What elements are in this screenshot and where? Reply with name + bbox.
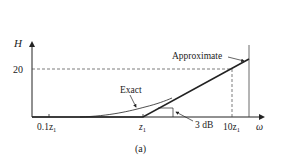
three-db-bracket [158, 108, 173, 117]
x-tick-10z1-label: 10z1 [223, 122, 240, 133]
approximate-label: Approximate [172, 51, 222, 61]
bode-magnitude-diagram: H 20 ω 0.1z1 z1 10z1 Approximate Exact 3… [0, 0, 281, 165]
y-axis-label: H [13, 37, 23, 49]
figure-caption: (a) [135, 143, 146, 155]
x-tick-z1-label: z1 [138, 122, 146, 133]
y-tick-20-label: 20 [13, 64, 23, 75]
approximate-pointer [228, 57, 244, 61]
x-tick-0-1z1-label: 0.1z1 [37, 122, 56, 133]
x-axis-label: ω [256, 121, 263, 132]
three-db-label: 3 dB [195, 120, 213, 130]
exact-label: Exact [120, 85, 142, 95]
exact-pointer [130, 95, 136, 107]
exact-curve [80, 98, 172, 117]
